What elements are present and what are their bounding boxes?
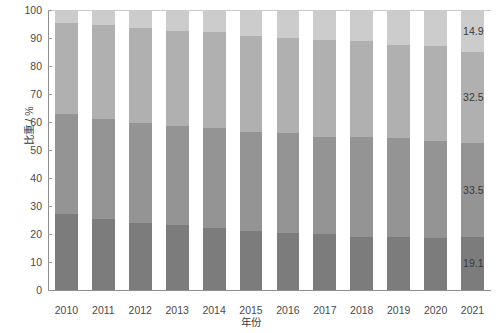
bar-segment[interactable] bbox=[203, 128, 226, 228]
bar-segment[interactable] bbox=[387, 45, 410, 138]
bar-segment[interactable] bbox=[313, 234, 336, 290]
bar-group[interactable] bbox=[203, 10, 226, 290]
bar-value-label: 19.1 bbox=[463, 258, 483, 269]
bar-segment[interactable] bbox=[55, 10, 78, 23]
bar-group[interactable] bbox=[129, 10, 152, 290]
bar-segment[interactable] bbox=[424, 10, 447, 46]
bar-segment[interactable] bbox=[313, 40, 336, 137]
bar-segment[interactable] bbox=[55, 23, 78, 115]
x-axis-line bbox=[48, 290, 491, 291]
bar-segment[interactable] bbox=[129, 10, 152, 28]
bar-group[interactable] bbox=[350, 10, 373, 290]
bar-group[interactable] bbox=[277, 10, 300, 290]
bar-segment[interactable] bbox=[92, 119, 115, 219]
bar-group[interactable] bbox=[55, 10, 78, 290]
bar-group[interactable] bbox=[166, 10, 189, 290]
bar-value-label: 14.9 bbox=[463, 26, 483, 37]
bar-segment[interactable] bbox=[424, 46, 447, 141]
bar-segment[interactable] bbox=[277, 10, 300, 38]
plot-area: 0102030405060708090100 20102011201220132… bbox=[48, 10, 491, 290]
bar-group[interactable] bbox=[424, 10, 447, 290]
y-tick-mark bbox=[48, 150, 52, 151]
bar-value-label: 33.5 bbox=[463, 184, 483, 195]
y-tick-mark bbox=[48, 206, 52, 207]
y-tick-label: 80 bbox=[2, 61, 42, 72]
bar-segment[interactable] bbox=[277, 38, 300, 133]
bar-segment[interactable] bbox=[387, 138, 410, 237]
bar-segment[interactable] bbox=[313, 137, 336, 234]
y-tick-mark bbox=[48, 234, 52, 235]
y-tick-mark bbox=[48, 38, 52, 39]
bar-segment[interactable] bbox=[387, 237, 410, 290]
bar-segment[interactable] bbox=[424, 141, 447, 238]
y-tick-label: 20 bbox=[2, 229, 42, 240]
bar-segment[interactable] bbox=[166, 126, 189, 224]
bar-segment[interactable] bbox=[166, 31, 189, 126]
bar-segment[interactable] bbox=[129, 123, 152, 222]
bar-group[interactable] bbox=[240, 10, 263, 290]
bar-group[interactable] bbox=[313, 10, 336, 290]
bar-segment[interactable] bbox=[92, 25, 115, 119]
y-tick-label: 0 bbox=[2, 285, 42, 296]
y-tick-label: 40 bbox=[2, 173, 42, 184]
bar-segment[interactable] bbox=[313, 10, 336, 40]
chart-page: 0102030405060708090100 20102011201220132… bbox=[0, 0, 502, 333]
y-tick-label: 90 bbox=[2, 33, 42, 44]
bar-segment[interactable] bbox=[203, 10, 226, 32]
bar-segment[interactable] bbox=[55, 214, 78, 290]
y-tick-mark bbox=[48, 10, 52, 11]
bar-group[interactable] bbox=[461, 10, 484, 290]
y-tick-mark bbox=[48, 262, 52, 263]
y-axis-title: 比重 / % bbox=[21, 94, 36, 158]
bar-segment[interactable] bbox=[240, 132, 263, 231]
bar-segment[interactable] bbox=[166, 225, 189, 290]
y-tick-mark bbox=[48, 178, 52, 179]
bar-segment[interactable] bbox=[387, 10, 410, 45]
bar-segment[interactable] bbox=[166, 10, 189, 31]
y-tick-mark bbox=[48, 66, 52, 67]
bar-segment[interactable] bbox=[55, 114, 78, 214]
bar-segment[interactable] bbox=[277, 233, 300, 290]
y-tick-label: 30 bbox=[2, 201, 42, 212]
bar-segment[interactable] bbox=[350, 137, 373, 236]
bar-segment[interactable] bbox=[203, 32, 226, 128]
bar-segment[interactable] bbox=[92, 10, 115, 25]
x-axis-title: 年份 bbox=[0, 314, 502, 329]
bar-segment[interactable] bbox=[350, 10, 373, 41]
y-tick-label: 10 bbox=[2, 257, 42, 268]
y-tick-label: 100 bbox=[2, 5, 42, 16]
y-tick-mark bbox=[48, 122, 52, 123]
bar-segment[interactable] bbox=[350, 237, 373, 290]
bar-segment[interactable] bbox=[277, 133, 300, 233]
bar-segment[interactable] bbox=[240, 10, 263, 36]
bar-segment[interactable] bbox=[203, 228, 226, 290]
bar-segment[interactable] bbox=[424, 238, 447, 290]
bar-segment[interactable] bbox=[129, 223, 152, 290]
bar-segment[interactable] bbox=[240, 231, 263, 290]
y-tick-mark bbox=[48, 290, 52, 291]
bar-segment[interactable] bbox=[240, 36, 263, 131]
bar-segment[interactable] bbox=[129, 28, 152, 123]
bar-value-label: 32.5 bbox=[463, 92, 483, 103]
bar-group[interactable] bbox=[387, 10, 410, 290]
bar-segment[interactable] bbox=[92, 219, 115, 290]
y-tick-mark bbox=[48, 94, 52, 95]
bar-group[interactable] bbox=[92, 10, 115, 290]
bar-segment[interactable] bbox=[350, 41, 373, 137]
